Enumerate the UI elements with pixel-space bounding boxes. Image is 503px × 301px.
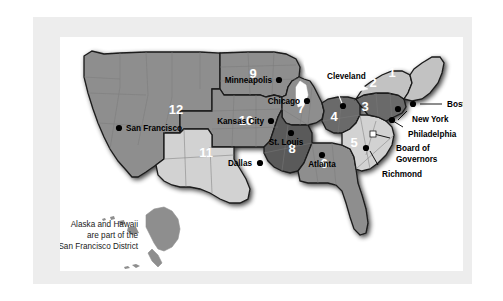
district-number-11: 11	[199, 145, 213, 160]
district-number-2: 2	[369, 75, 376, 90]
minneapolis-label: Minneapolis	[225, 76, 273, 85]
district-number-3: 3	[361, 99, 368, 114]
richmond-dot	[363, 145, 369, 151]
district-number-5: 5	[350, 135, 357, 150]
cleveland-dot	[340, 103, 346, 109]
stlouis-label: St. Louis	[269, 138, 304, 147]
philadelphia-leader-line	[393, 121, 403, 127]
governors-label: Governors	[396, 155, 438, 164]
boston-dot	[410, 101, 416, 107]
cleveland-label: Cleveland	[327, 72, 366, 81]
minneapolis-dot	[276, 77, 282, 83]
atlanta-label: Atlanta	[308, 160, 336, 169]
ak-hi-note-line-1: Alaska and Hawaii	[71, 220, 139, 229]
boston-label: Boston	[447, 100, 463, 109]
dallas-label: Dallas	[228, 159, 253, 168]
newyork-label: New York	[412, 115, 449, 124]
alaska-shape	[146, 207, 180, 267]
kansascity-label: Kansas City	[217, 117, 264, 126]
district-number-4: 4	[330, 109, 338, 124]
ak-hi-note-line-2: are part of the	[87, 231, 138, 240]
newyork-dot	[395, 106, 401, 112]
aleutian-islands	[124, 264, 140, 269]
philadelphia-dot	[389, 117, 395, 123]
sanfrancisco-label: San Francisco	[126, 124, 182, 133]
ak-hi-note-line-3: San Francisco District	[60, 242, 139, 251]
sanfrancisco-dot	[116, 125, 122, 131]
dallas-dot	[257, 160, 263, 166]
board-of-label: Board of	[396, 144, 430, 153]
federal-reserve-district-map: 12 9 10 11 7 8 4 6 5 3 2 1	[60, 37, 463, 271]
board-of-governors-marker	[370, 131, 376, 137]
atlanta-dot	[319, 152, 325, 158]
chicago-dot	[304, 98, 310, 104]
philadelphia-label: Philadelphia	[408, 130, 457, 139]
stlouis-dot	[288, 130, 294, 136]
district-number-12: 12	[169, 102, 183, 117]
kansascity-dot	[268, 118, 274, 124]
chicago-label: Chicago	[268, 97, 300, 106]
figure-root: 12 9 10 11 7 8 4 6 5 3 2 1	[0, 0, 503, 301]
richmond-label: Richmond	[382, 170, 422, 179]
map-svg: 12 9 10 11 7 8 4 6 5 3 2 1	[60, 37, 463, 271]
district-number-1: 1	[388, 65, 395, 80]
